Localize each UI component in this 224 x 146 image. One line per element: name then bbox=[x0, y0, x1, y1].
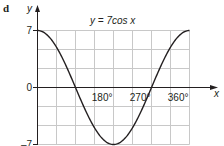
x-tick-labels: 180°270°360° bbox=[92, 92, 189, 103]
chart-title: y = 7cos x bbox=[89, 15, 136, 26]
x-axis-label: x bbox=[213, 88, 220, 99]
cosine-graph: d y x y = 7cos x 70–7 180°270°360° bbox=[0, 0, 224, 146]
y-tick-label: 0 bbox=[26, 82, 32, 93]
x-tick-label: 180° bbox=[92, 92, 113, 103]
y-tick-labels: 70–7 bbox=[21, 25, 38, 146]
y-axis-arrow-icon bbox=[35, 5, 40, 12]
x-tick-label: 360° bbox=[168, 92, 189, 103]
part-label: d bbox=[3, 2, 9, 14]
y-axis-label: y bbox=[26, 3, 33, 14]
y-tick-label: 7 bbox=[26, 25, 32, 36]
y-tick-label: –7 bbox=[21, 139, 33, 146]
